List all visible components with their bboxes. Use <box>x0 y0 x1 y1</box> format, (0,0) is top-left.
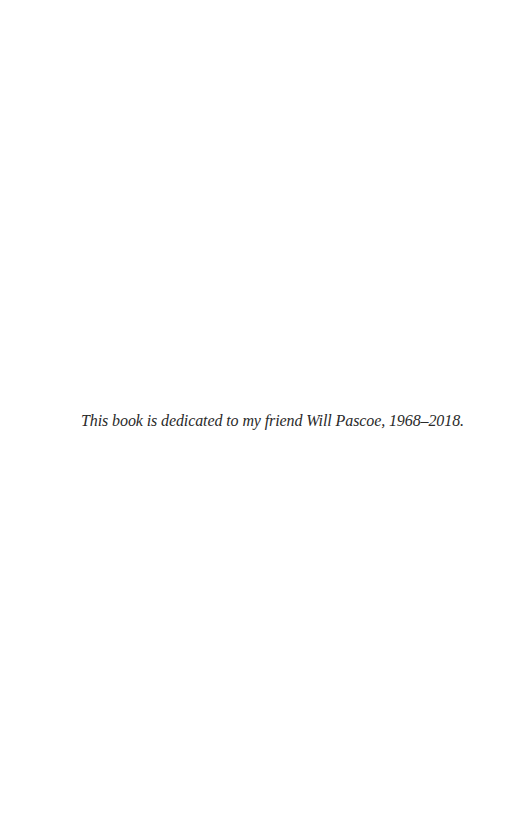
dedication-text: This book is dedicated to my friend Will… <box>0 411 525 431</box>
book-page: This book is dedicated to my friend Will… <box>0 0 525 838</box>
